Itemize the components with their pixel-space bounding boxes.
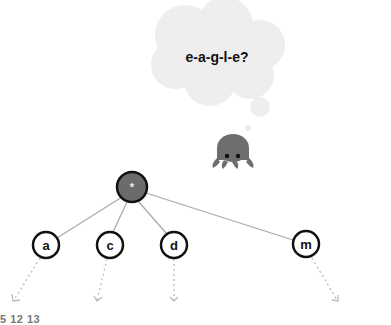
node-label: d bbox=[170, 238, 178, 253]
octopus-icon bbox=[213, 134, 254, 169]
node-label: m bbox=[300, 237, 312, 252]
child-node-a: a bbox=[33, 232, 59, 258]
trie-diagram: e-a-g-l-e? * a c bbox=[0, 0, 391, 325]
root-node: * bbox=[117, 172, 147, 202]
continuation-arrows bbox=[12, 258, 338, 301]
child-node-d: d bbox=[161, 232, 187, 258]
child-node-c: c bbox=[97, 232, 123, 258]
child-node-m: m bbox=[293, 231, 319, 257]
root-label: * bbox=[130, 181, 135, 193]
figure-caption: 5 12 13 bbox=[0, 313, 40, 325]
thought-text: e-a-g-l-e? bbox=[186, 49, 249, 65]
node-label: a bbox=[42, 238, 50, 253]
thought-bubble bbox=[151, 0, 285, 131]
node-label: c bbox=[106, 238, 113, 253]
